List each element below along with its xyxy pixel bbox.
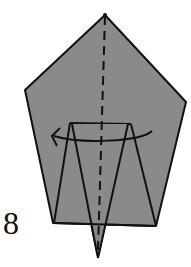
origami-diagram bbox=[0, 0, 191, 267]
step-number: 8 bbox=[3, 207, 19, 239]
top-vertex bbox=[103, 13, 107, 17]
flap-top-edge bbox=[70, 123, 131, 124]
